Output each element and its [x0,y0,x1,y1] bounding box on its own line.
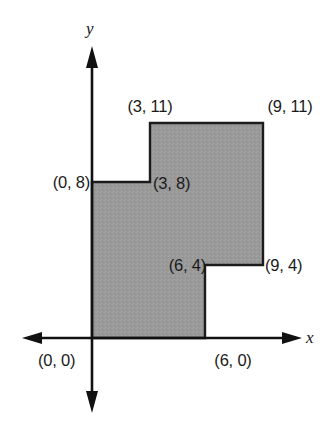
vertex-label-0-8: (0, 8) [53,174,90,191]
x-axis-label: x [306,329,314,346]
y-axis-top-arrowhead [86,46,98,68]
x-axis-right-arrowhead [282,332,302,344]
vertex-label-6-0: (6, 0) [214,352,251,369]
vertex-label-6-4: (6, 4) [169,257,206,274]
vertex-label-0-0: (0, 0) [38,352,75,369]
vertex-label-9-11: (9, 11) [267,98,312,115]
shaded-polygon [92,123,263,338]
y-axis-label: y [86,20,94,37]
y-axis-bottom-arrowhead [86,391,98,413]
vertex-label-3-11: (3, 11) [127,98,172,115]
vertex-label-3-8: (3, 8) [153,175,190,192]
x-axis-left-arrowhead [22,332,42,344]
vertex-label-9-4: (9, 4) [265,257,302,274]
